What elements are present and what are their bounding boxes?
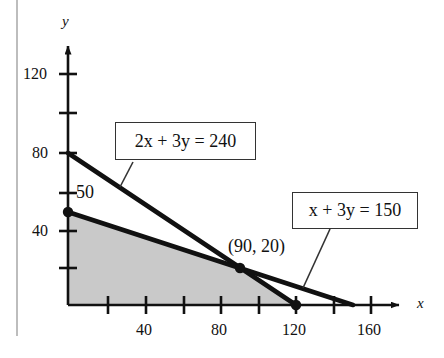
x-tick-label-40: 40 (136, 322, 152, 338)
y-axis-label: y (62, 14, 69, 29)
callout-1-leader (120, 162, 133, 187)
graph-figure: y x 120 80 40 40 80 120 160 50 (90, 20) … (0, 0, 444, 358)
y-tick-label-40: 40 (32, 223, 48, 239)
callout-2-leader (303, 229, 330, 288)
y-tick-label-80: 80 (32, 145, 48, 161)
vertex-point-label: (90, 20) (228, 237, 285, 255)
plot-canvas (0, 0, 444, 358)
point-120-0 (291, 300, 301, 310)
x-tick-label-160: 160 (357, 322, 381, 338)
y-intercept-50-label: 50 (76, 183, 94, 201)
y-tick-label-120: 120 (23, 66, 47, 82)
point-0-50 (63, 207, 73, 217)
callout-equation-1: 2x + 3y = 240 (115, 122, 256, 160)
x-tick-label-80: 80 (211, 322, 227, 338)
feasible-region-shading (68, 212, 296, 305)
point-90-20 (235, 263, 245, 273)
x-axis-label: x (417, 296, 424, 311)
x-tick-label-120: 120 (282, 322, 306, 338)
callout-equation-2: x + 3y = 150 (292, 192, 418, 229)
